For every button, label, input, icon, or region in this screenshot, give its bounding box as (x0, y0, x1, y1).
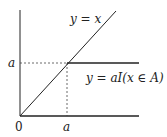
identity-label: y = x (69, 12, 101, 26)
diagram-canvas: y = x y = aI(x ∈ A) a 0 a (0, 0, 167, 137)
indicator-label: y = aI(x ∈ A) (85, 71, 164, 85)
y-tick-label: a (8, 56, 15, 70)
origin-label: 0 (15, 120, 23, 134)
x-tick-label: a (63, 120, 70, 134)
